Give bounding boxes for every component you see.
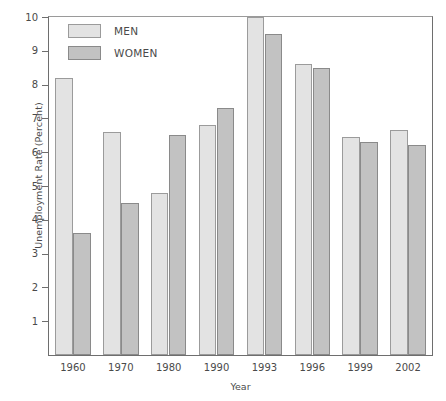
x-axis-tick-label: 1970 — [97, 362, 145, 373]
y-axis-tick: 2 — [42, 287, 49, 288]
y-axis-tick-label: 1 — [32, 316, 38, 327]
bar-chart: Unemployment Rate (Percent) 12345678910 … — [0, 0, 446, 401]
bar-group — [151, 17, 187, 355]
x-axis-tick-label: 1980 — [145, 362, 193, 373]
bar-women-1996 — [313, 68, 331, 355]
legend-label-women: WOMEN — [114, 47, 158, 59]
y-axis-tick-label: 5 — [32, 181, 38, 192]
bar-women-2002 — [408, 145, 426, 355]
legend-label-men: MEN — [114, 25, 138, 37]
y-axis-tick-label: 7 — [32, 113, 38, 124]
bar-group — [295, 17, 331, 355]
legend-item-men: MEN — [68, 22, 158, 39]
y-axis-tick: 10 — [42, 17, 49, 18]
legend-swatch-men — [68, 24, 101, 38]
bar-women-1993 — [265, 34, 283, 355]
legend-item-women: WOMEN — [68, 44, 158, 61]
bar-women-1960 — [73, 233, 91, 355]
x-axis-tick-label: 1996 — [288, 362, 336, 373]
legend-swatch-women — [68, 46, 101, 60]
x-axis-tick-label: 2002 — [384, 362, 432, 373]
bar-group — [247, 17, 283, 355]
y-axis-tick: 6 — [42, 152, 49, 153]
x-axis-tick-label: 1960 — [49, 362, 97, 373]
bar-women-1990 — [217, 108, 235, 355]
bars-layer — [49, 17, 432, 355]
y-axis-tick-label: 10 — [25, 12, 38, 23]
bar-group — [342, 17, 378, 355]
bar-men-1990 — [199, 125, 217, 355]
y-axis-tick-label: 8 — [32, 79, 38, 90]
y-axis-tick: 4 — [42, 220, 49, 221]
bar-group — [390, 17, 426, 355]
bar-men-1993 — [247, 17, 265, 355]
y-axis-tick: 3 — [42, 254, 49, 255]
bar-women-1999 — [360, 142, 378, 355]
x-axis-tick-label: 1990 — [193, 362, 241, 373]
x-axis-title: Year — [48, 381, 433, 392]
bar-men-1996 — [295, 64, 313, 355]
y-axis-tick: 7 — [42, 118, 49, 119]
bar-men-1980 — [151, 193, 169, 355]
y-axis-tick: 1 — [42, 321, 49, 322]
legend: MENWOMEN — [68, 22, 158, 66]
y-axis-tick-label: 6 — [32, 147, 38, 158]
y-axis-tick-label: 3 — [32, 248, 38, 259]
bar-men-1960 — [55, 78, 73, 355]
bar-women-1980 — [169, 135, 187, 355]
y-axis-tick: 9 — [42, 51, 49, 52]
bar-group — [103, 17, 139, 355]
bar-women-1970 — [121, 203, 139, 355]
bar-group — [55, 17, 91, 355]
x-axis-tick-label: 1999 — [336, 362, 384, 373]
bar-group — [199, 17, 235, 355]
y-axis-tick: 5 — [42, 186, 49, 187]
bar-men-1970 — [103, 132, 121, 355]
y-axis-tick: 8 — [42, 85, 49, 86]
y-axis-tick-label: 2 — [32, 282, 38, 293]
y-axis-tick-label: 4 — [32, 214, 38, 225]
y-axis-tick-label: 9 — [32, 45, 38, 56]
bar-men-1999 — [342, 137, 360, 355]
x-axis-tick-label: 1993 — [241, 362, 289, 373]
bar-men-2002 — [390, 130, 408, 355]
